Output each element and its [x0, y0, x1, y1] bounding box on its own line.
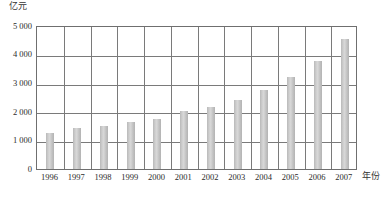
bar-cell [171, 27, 198, 169]
bar [73, 128, 81, 169]
x-tick-label: 2003 [222, 172, 252, 182]
x-tick-label: 2002 [195, 172, 225, 182]
bar [234, 100, 242, 169]
y-tick-label: 1 000 [0, 136, 32, 145]
bar [207, 107, 215, 169]
y-tick-label: 4 000 [0, 50, 32, 59]
x-tick-label: 2005 [275, 172, 305, 182]
bar-cell [117, 27, 144, 169]
bar [260, 90, 268, 169]
bar-cell [224, 27, 251, 169]
x-tick-label: 2004 [248, 172, 278, 182]
bar-cell [305, 27, 332, 169]
x-tick-label: 2007 [329, 172, 359, 182]
y-tick-label: 2 000 [0, 108, 32, 117]
y-tick-label: 5 000 [0, 22, 32, 31]
bar [127, 122, 135, 169]
bar-cell [198, 27, 225, 169]
x-tick-label: 1998 [88, 172, 118, 182]
bar-series [37, 27, 356, 169]
bar-cell [144, 27, 171, 169]
bar [153, 119, 161, 169]
x-tick-label: 2001 [168, 172, 198, 182]
bar-cell [37, 27, 64, 169]
x-tick-label: 2000 [141, 172, 171, 182]
x-tick-label: 1999 [115, 172, 145, 182]
bar-cell [278, 27, 305, 169]
bar [46, 133, 54, 169]
bar [180, 111, 188, 169]
x-tick-label: 2006 [302, 172, 332, 182]
y-tick-label: 3 000 [0, 79, 32, 88]
bar [287, 77, 295, 169]
bar-chart-figure: 亿元 年份 5 000 4 000 3 000 2 000 1 000 0 [0, 0, 391, 205]
bar [100, 126, 108, 169]
plot-area [36, 26, 357, 170]
bar-cell [91, 27, 118, 169]
y-tick-label: 0 [0, 165, 32, 174]
bar [314, 61, 322, 169]
bar [341, 39, 349, 169]
x-tick-label: 1996 [34, 172, 64, 182]
bar-cell [251, 27, 278, 169]
bar-cell [64, 27, 91, 169]
x-tick-label: 1997 [61, 172, 91, 182]
bar-cell [331, 27, 358, 169]
